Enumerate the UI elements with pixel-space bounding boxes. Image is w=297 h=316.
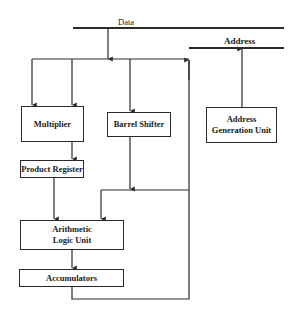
multiplier-block: Multiplier	[21, 106, 84, 142]
multiplier-label: Multiplier	[34, 119, 71, 130]
alu-label-line2: Logic Unit	[53, 235, 92, 246]
address-generation-unit-block: Address Generation Unit	[206, 107, 277, 143]
product-register-label: Product Register	[21, 164, 82, 175]
data-bus-label: Data	[118, 17, 134, 27]
agu-label-line2: Generation Unit	[212, 125, 271, 136]
address-bus-label: Address	[224, 36, 255, 46]
alu-block: Arithmetic Logic Unit	[20, 220, 124, 250]
alu-label-line1: Arithmetic	[52, 224, 92, 235]
accumulators-label: Accumulators	[46, 273, 97, 284]
accumulators-block: Accumulators	[19, 269, 124, 287]
agu-label-line1: Address	[227, 114, 257, 125]
barrel-shifter-label: Barrel Shifter	[114, 119, 165, 130]
barrel-shifter-block: Barrel Shifter	[107, 112, 171, 137]
product-register-block: Product Register	[20, 160, 84, 178]
